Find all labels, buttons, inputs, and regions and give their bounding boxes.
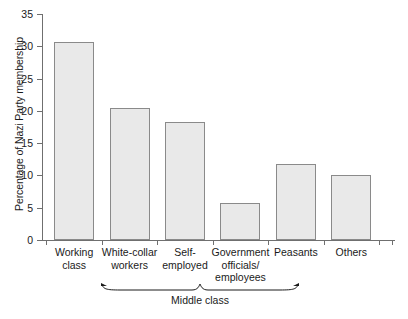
y-tick [37,240,42,241]
x-tick [102,240,103,245]
y-tick [37,14,42,15]
bar [276,164,316,240]
y-tick [37,111,42,112]
x-tick [392,240,393,245]
y-axis-line [42,14,43,241]
y-tick-label: 10 [9,170,33,180]
y-tick-label: 25 [9,74,33,84]
bar [331,175,371,240]
y-tick-label: 5 [9,203,33,213]
bar [54,42,94,240]
x-tick [46,240,47,245]
y-tick-label: 0 [9,235,33,245]
x-category-label: Others [309,246,393,259]
x-tick [213,240,214,245]
y-tick-label: 15 [9,138,33,148]
bar [220,203,260,240]
bar [165,122,205,240]
bar [110,108,150,240]
y-tick [37,46,42,47]
x-tick [324,240,325,245]
x-tick [268,240,269,245]
plot-area: 05101520253035 [42,14,394,240]
x-tick [157,240,158,245]
y-tick [37,143,42,144]
y-tick [37,79,42,80]
bar-chart: Percentage of Nazi Party membership 0510… [0,0,408,319]
x-axis-line [42,240,395,241]
y-tick-label: 30 [9,41,33,51]
x-tick [379,240,380,245]
y-tick-label: 20 [9,106,33,116]
middle-class-bracket-label: Middle class [100,294,300,306]
y-tick-label: 35 [9,9,33,19]
y-tick [37,208,42,209]
y-tick [37,175,42,176]
middle-class-bracket-icon [100,282,300,294]
